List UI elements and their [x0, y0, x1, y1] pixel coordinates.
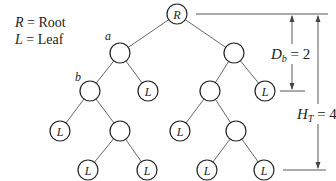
- legend-leaf: L = Leaf: [14, 32, 64, 47]
- leaf-label: L: [176, 125, 184, 139]
- internal-node-b: b: [75, 70, 100, 101]
- leaf-node: L: [78, 160, 98, 180]
- leaf-node: L: [170, 121, 190, 141]
- height-arrow: [316, 15, 321, 169]
- leaf-node: L: [254, 160, 274, 180]
- leaf-node: L: [137, 160, 157, 180]
- root-label: R: [172, 8, 181, 22]
- internal-node: [200, 81, 220, 101]
- height-label: HT = 4: [296, 106, 336, 124]
- tree-nodes: R a b L L L: [50, 4, 275, 180]
- leaf-label: L: [260, 164, 268, 178]
- leaf-label: L: [144, 85, 152, 99]
- root-node: R: [167, 4, 187, 24]
- leaf-label: L: [261, 85, 269, 99]
- node-tag-b: b: [75, 70, 81, 84]
- legend-root: R = Root: [14, 15, 66, 30]
- leaf-label: L: [84, 164, 92, 178]
- leaf-node: L: [197, 160, 217, 180]
- internal-node-a: a: [105, 29, 130, 63]
- legend: R = Root L = Leaf: [14, 15, 66, 47]
- leaf-label: L: [203, 164, 211, 178]
- internal-node: [226, 121, 246, 141]
- internal-node: [110, 121, 130, 141]
- leaf-node: L: [255, 81, 275, 101]
- leaf-node: L: [138, 81, 158, 101]
- binary-tree-diagram: R a b L L L: [0, 0, 336, 181]
- internal-node: [224, 43, 244, 63]
- node-tag-a: a: [105, 29, 111, 43]
- leaf-node: L: [50, 121, 70, 141]
- leaf-label: L: [143, 164, 151, 178]
- leaf-label: L: [56, 125, 64, 139]
- depth-label: Db = 2: [270, 46, 310, 64]
